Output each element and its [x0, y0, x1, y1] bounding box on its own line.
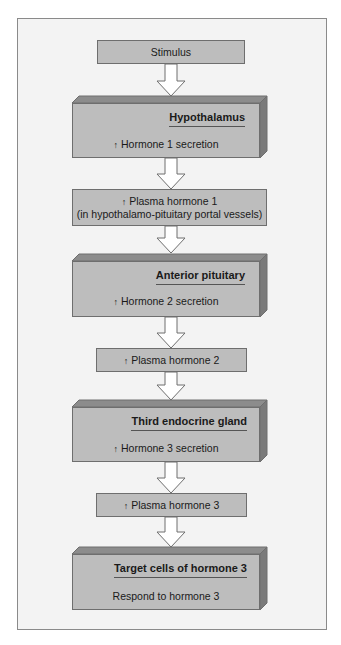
down-arrow-icon: [156, 226, 186, 254]
target-cells-box: Target cells of hormone 3 Respond to hor…: [72, 547, 267, 610]
third-endocrine-gland-box: Third endocrine gland ↑Hormone 3 secreti…: [72, 400, 267, 462]
hypothalamus-box: Hypothalamus ↑Hormone 1 secretion: [72, 96, 267, 158]
target-cells-title: Target cells of hormone 3: [114, 562, 247, 578]
down-arrow-icon: [156, 158, 186, 190]
anterior-pituitary-text: ↑Hormone 2 secretion: [72, 295, 260, 307]
hypothalamus-text: ↑Hormone 1 secretion: [72, 138, 260, 150]
plasma-hormone-2-box: ↑Plasma hormone 2: [96, 348, 247, 372]
up-arrow-icon: ↑: [114, 140, 119, 150]
plasma-hormone-3-box: ↑Plasma hormone 3: [96, 493, 247, 517]
anterior-pituitary-box: Anterior pituitary ↑Hormone 2 secretion: [72, 254, 267, 317]
target-cells-text: Respond to hormone 3: [72, 590, 260, 602]
stimulus-label: Stimulus: [151, 46, 191, 58]
plasma-hormone-3-line1: ↑Plasma hormone 3: [124, 499, 220, 512]
hypothalamus-title: Hypothalamus: [169, 111, 245, 127]
third-endocrine-gland-title: Third endocrine gland: [131, 415, 247, 431]
plasma-hormone-1-line1: ↑Plasma hormone 1: [122, 195, 218, 208]
up-arrow-icon: ↑: [114, 297, 119, 307]
plasma-hormone-1-line2: (in hypothalamo-pituitary portal vessels…: [77, 208, 263, 220]
up-arrow-icon: ↑: [114, 444, 119, 454]
down-arrow-icon: [156, 462, 186, 494]
anterior-pituitary-title: Anterior pituitary: [156, 269, 245, 285]
down-arrow-icon: [156, 64, 186, 97]
plasma-hormone-1-box: ↑Plasma hormone 1 (in hypothalamo-pituit…: [72, 189, 267, 226]
down-arrow-icon: [156, 372, 186, 401]
plasma-hormone-2-line1: ↑Plasma hormone 2: [124, 354, 220, 367]
up-arrow-icon: ↑: [124, 356, 129, 366]
stimulus-box: Stimulus: [97, 40, 245, 64]
up-arrow-icon: ↑: [124, 501, 129, 511]
third-endocrine-gland-text: ↑Hormone 3 secretion: [72, 442, 260, 454]
down-arrow-icon: [156, 317, 186, 349]
up-arrow-icon: ↑: [122, 197, 127, 207]
down-arrow-icon: [156, 517, 186, 548]
